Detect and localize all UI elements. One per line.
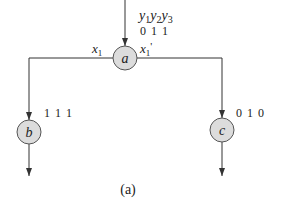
node-a-label: a: [122, 51, 129, 66]
state-diagram: a b c y1y2y3 0 1 1 1 1 1 0 1 0 x1 x1' (a…: [0, 0, 281, 211]
node-c-code: 0 1 0: [236, 106, 265, 120]
node-a-code: 0 1 1: [140, 24, 169, 38]
state-variable-header: y1y2y3: [137, 8, 173, 25]
edge-label-x1: x1: [91, 41, 102, 58]
node-a: a: [113, 46, 137, 70]
node-b-code: 1 1 1: [44, 106, 73, 120]
svg-text:y1y2y3: y1y2y3: [137, 8, 173, 25]
figure-caption: (a): [120, 182, 136, 198]
node-b: b: [17, 120, 41, 144]
edge-label-x1-prime: x1': [139, 40, 152, 58]
node-c-label: c: [219, 123, 226, 138]
node-b-label: b: [26, 125, 33, 140]
node-c: c: [210, 118, 234, 142]
